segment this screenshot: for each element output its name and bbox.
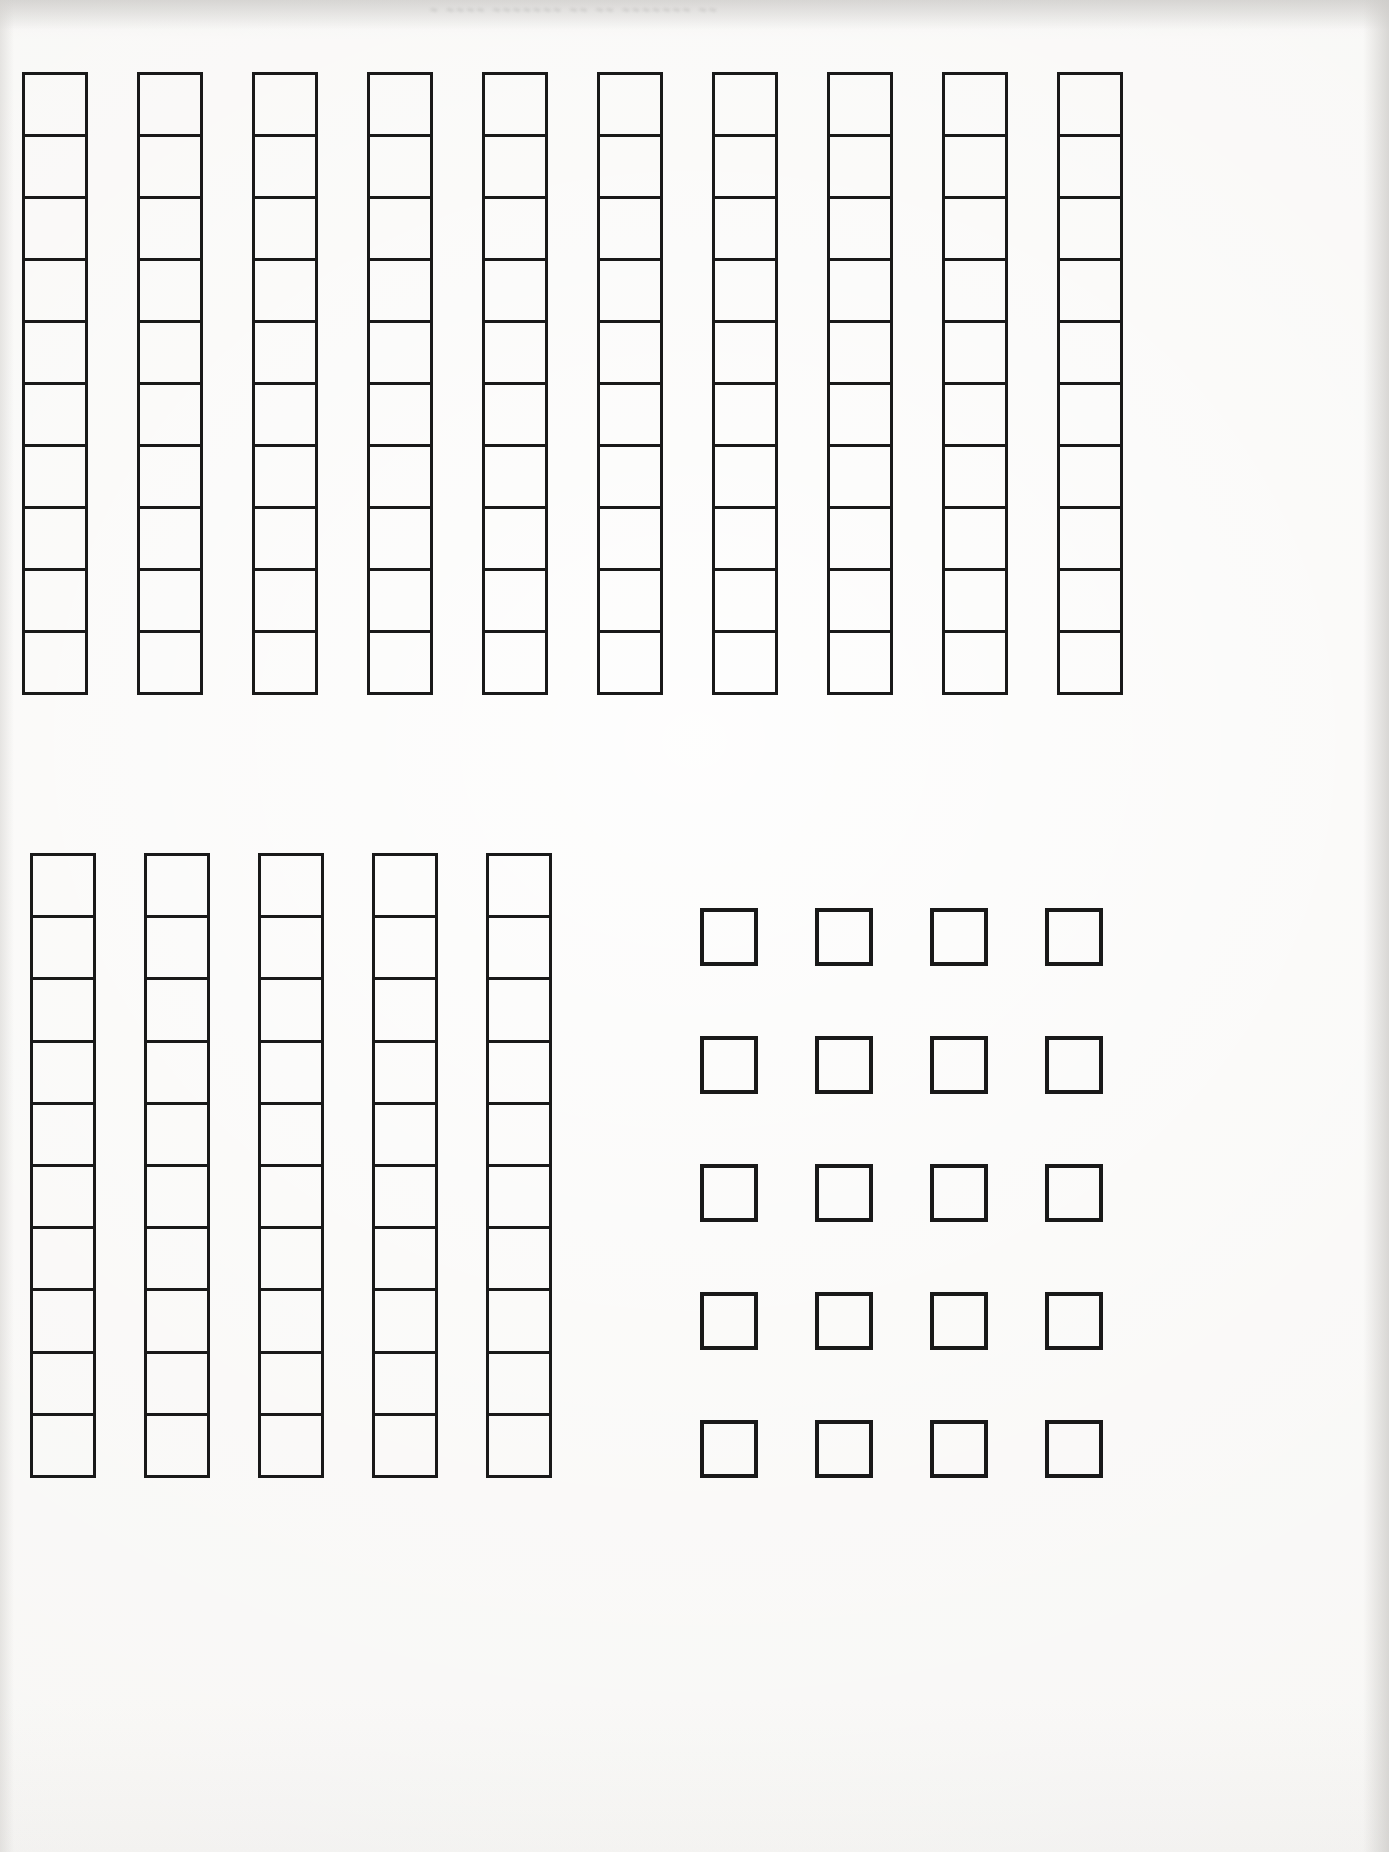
ten-rod[interactable] [30,853,96,1478]
ten-rod-cell [140,137,200,199]
unit-square[interactable] [815,908,873,966]
ten-rod-cell [489,1043,549,1105]
ten-rod-cell [485,447,545,509]
ten-rod-cell [600,571,660,633]
ten-rod-cell [147,980,207,1042]
ten-rod-cell [600,323,660,385]
unit-square[interactable] [1045,908,1103,966]
unit-square[interactable] [1045,1292,1103,1350]
ten-rod-cell [33,1229,93,1291]
unit-square[interactable] [1045,1420,1103,1478]
unit-square[interactable] [815,1164,873,1222]
unit-square[interactable] [815,1036,873,1094]
ten-rod-cell [489,918,549,980]
ten-rod-cell [261,1416,321,1475]
ten-rod[interactable] [712,72,778,695]
ten-rod-cell [1060,199,1120,261]
ten-rod-cell [375,1291,435,1353]
ten-rod-cell [715,509,775,571]
ten-rod[interactable] [252,72,318,695]
unit-square[interactable] [930,1292,988,1350]
ten-rod[interactable] [1057,72,1123,695]
ten-rod-cell [830,633,890,692]
ten-rod-cell [261,1105,321,1167]
ten-rod-cell [489,1105,549,1167]
unit-square[interactable] [700,1420,758,1478]
ten-rod-cell [1060,323,1120,385]
ten-rod-cell [140,323,200,385]
ten-rod-cell [600,137,660,199]
ten-rod-cell [261,918,321,980]
unit-square[interactable] [930,908,988,966]
ten-rod-cell [715,323,775,385]
ten-rod-cell [375,1167,435,1229]
ten-rod-cell [600,509,660,571]
ten-rod-cell [945,385,1005,447]
ten-rod[interactable] [827,72,893,695]
ten-rod-cell [33,1416,93,1475]
unit-square[interactable] [930,1036,988,1094]
ten-rod-cell [945,323,1005,385]
ten-rod-cell [1060,137,1120,199]
unit-square[interactable] [815,1292,873,1350]
ten-rod-cell [375,1105,435,1167]
ten-rod[interactable] [367,72,433,695]
ten-rod-cell [375,1229,435,1291]
ten-rod[interactable] [22,72,88,695]
ten-rod-cell [33,1105,93,1167]
unit-square[interactable] [815,1420,873,1478]
ten-rod[interactable] [258,853,324,1478]
ten-rod-cell [715,199,775,261]
ten-rod-cell [489,1354,549,1416]
ten-rod-cell [945,633,1005,692]
unit-square[interactable] [700,1164,758,1222]
ten-rod-cell [1060,261,1120,323]
ten-rod-cell [261,1354,321,1416]
ten-rod-cell [945,261,1005,323]
unit-square[interactable] [1045,1036,1103,1094]
unit-square[interactable] [930,1420,988,1478]
unit-square[interactable] [700,1036,758,1094]
ten-rod-cell [255,75,315,137]
ten-rod[interactable] [597,72,663,695]
ten-rod-cell [485,633,545,692]
ten-rod-cell [147,1354,207,1416]
ten-rod-cell [140,633,200,692]
ten-rod-cell [25,447,85,509]
ten-rod[interactable] [144,853,210,1478]
unit-square[interactable] [1045,1164,1103,1222]
ghost-header-text: ~ ~~~~ ~~~~~~~ ~~ ~~ ~~~~~~~ ~~ [430,2,890,24]
ten-rod-cell [485,75,545,137]
ten-rod-cell [370,571,430,633]
ten-rod-cell [715,633,775,692]
ten-rod-cell [489,856,549,918]
ten-rod-cell [375,980,435,1042]
unit-square[interactable] [700,908,758,966]
ten-rod-cell [830,447,890,509]
ten-rod[interactable] [942,72,1008,695]
ten-rod-cell [600,261,660,323]
ten-rod-cell [485,261,545,323]
ten-rod-cell [140,199,200,261]
ten-rod-cell [140,75,200,137]
ten-rod[interactable] [137,72,203,695]
ten-rod-cell [830,323,890,385]
ten-rod-cell [147,1416,207,1475]
ten-rod-cell [370,385,430,447]
ten-rod[interactable] [486,853,552,1478]
ten-rod-cell [140,571,200,633]
ten-rod-cell [370,509,430,571]
ten-rod-cell [830,261,890,323]
ten-rod-cell [370,323,430,385]
ten-rod-cell [715,137,775,199]
ten-rod-cell [147,1105,207,1167]
unit-square[interactable] [700,1292,758,1350]
ten-rod[interactable] [372,853,438,1478]
unit-square[interactable] [930,1164,988,1222]
ten-rod-cell [375,918,435,980]
ten-rod-cell [25,199,85,261]
ten-rod-cell [830,571,890,633]
ten-rod-cell [25,75,85,137]
ten-rod-cell [945,571,1005,633]
ten-rod[interactable] [482,72,548,695]
